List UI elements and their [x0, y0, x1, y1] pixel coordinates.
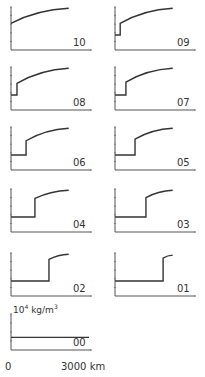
- density-curve: [11, 68, 69, 95]
- y-unit-exp2: 3: [54, 303, 58, 310]
- panel-label: 01: [177, 283, 190, 294]
- y-unit-label: 104 kg/m3: [13, 303, 58, 315]
- panel-10: 10: [10, 7, 91, 51]
- panel-00: 00: [10, 314, 91, 351]
- panel-label: 00: [73, 337, 86, 348]
- x-tick-max: 3000 km: [61, 361, 105, 372]
- density-curve: [115, 8, 173, 35]
- panel-label: 02: [73, 283, 86, 294]
- density-curve: [115, 255, 173, 281]
- panel-07: 07: [114, 67, 195, 111]
- panel-09: 09: [114, 7, 195, 51]
- panel-05: 05: [114, 127, 195, 171]
- panel-label: 08: [73, 97, 86, 108]
- density-curve: [11, 128, 69, 155]
- panel-label: 10: [73, 37, 86, 48]
- density-curve: [11, 190, 69, 217]
- panel-label: 09: [177, 37, 190, 48]
- panel-label: 04: [73, 219, 86, 230]
- panel-label: 07: [177, 97, 190, 108]
- density-curve: [115, 190, 173, 217]
- small-multiples-chart: 1009080706050403020100: [0, 0, 205, 377]
- panel-01: 01: [114, 253, 195, 297]
- y-unit-text: kg/m: [28, 305, 54, 315]
- density-curve: [115, 68, 173, 95]
- density-curve: [11, 254, 69, 281]
- panel-02: 02: [10, 253, 91, 297]
- density-curve: [115, 128, 173, 155]
- density-curve: [11, 8, 69, 23]
- panel-label: 05: [177, 157, 190, 168]
- panel-label: 06: [73, 157, 86, 168]
- panel-06: 06: [10, 127, 91, 171]
- y-unit-base: 10: [13, 305, 24, 315]
- panel-03: 03: [114, 189, 195, 233]
- panel-label: 03: [177, 219, 190, 230]
- x-tick-zero: 0: [5, 361, 11, 372]
- panel-08: 08: [10, 67, 91, 111]
- panel-04: 04: [10, 189, 91, 233]
